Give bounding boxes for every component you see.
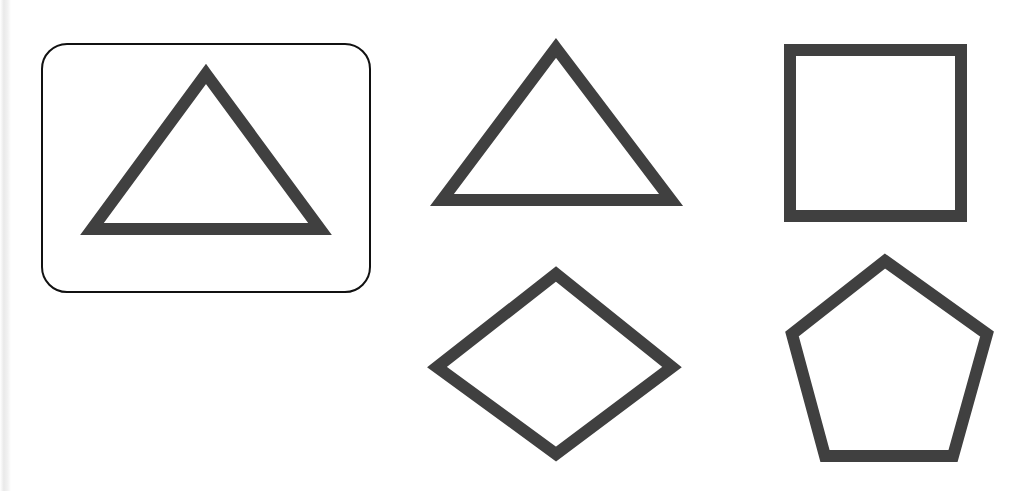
shapes-layer [0,0,1027,491]
triangle-shape [442,48,671,200]
rhombus-shape [437,274,672,454]
drawing-canvas [0,0,1027,491]
pentagon-shape [792,261,987,456]
triangle-boxed-shape [92,74,320,229]
square-shape [790,50,961,216]
